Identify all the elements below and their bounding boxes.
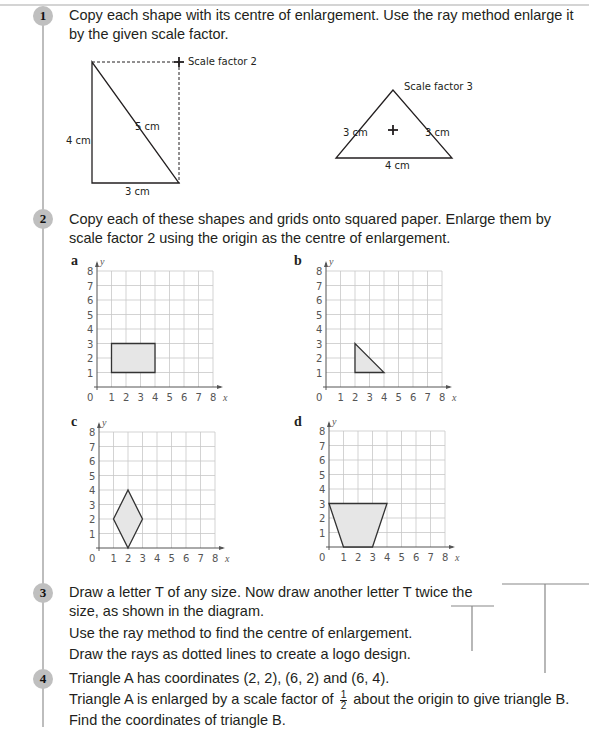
- question-4-line: Triangle A is enlarged by a scale factor…: [69, 690, 569, 711]
- question-4-line: Triangle A has coordinates (2, 2), (6, 2…: [69, 669, 389, 688]
- question-number-badge: 4: [33, 669, 53, 689]
- question-4-line: Find the coordinates of triangle B.: [69, 711, 286, 730]
- fraction-one-half: 12: [340, 690, 348, 711]
- question-4-text: Triangle A is enlarged by a scale factor…: [69, 691, 334, 707]
- question-4-text: about the origin to give triangle B.: [353, 691, 569, 707]
- letter-t-diagram: [0, 0, 589, 731]
